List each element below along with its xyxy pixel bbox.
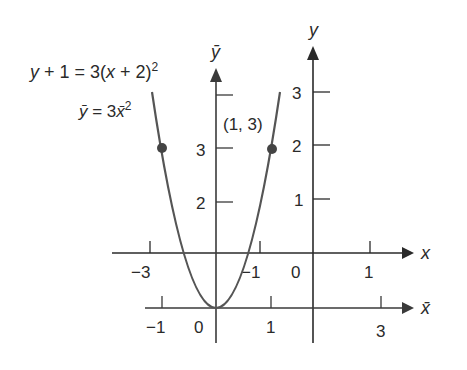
y-tick-label-3: 3 — [292, 84, 301, 103]
xbar-axis-arrow-icon — [402, 302, 414, 314]
xbar-origin-label: 0 — [194, 318, 203, 337]
x-axis-arrow-icon — [402, 247, 414, 259]
xbar-tick-label-1: 1 — [266, 318, 275, 337]
xbar-axis-label: x̄ — [420, 298, 431, 318]
x-origin-label: 0 — [291, 263, 300, 282]
xbar-axis: −1 0 1 3 x̄ — [145, 296, 431, 341]
y-tick-label-2: 2 — [292, 137, 301, 156]
equation-original: y + 1 = 3(x + 2)2 — [28, 60, 159, 82]
x-axis: −3 −1 0 1 x — [112, 241, 431, 282]
ybar-axis-arrow-icon — [210, 68, 222, 82]
xbar-tick-label-neg1: −1 — [146, 318, 165, 337]
point-right — [267, 144, 277, 154]
point-label: (1, 3) — [223, 115, 263, 134]
y-axis-arrow-icon — [307, 46, 319, 60]
xbar-tick-label-3: 3 — [376, 322, 385, 341]
ybar-axis-label: ȳ — [209, 42, 221, 62]
ybar-tick-label-2: 2 — [196, 194, 205, 213]
x-tick-label-neg3: −3 — [131, 263, 150, 282]
y-axis-label: y — [307, 20, 319, 40]
y-tick-label-1: 1 — [294, 191, 303, 210]
equation-translated: ȳ = 3x̄2 — [78, 99, 132, 121]
point-left — [157, 143, 167, 153]
ybar-tick-label-3: 3 — [196, 141, 205, 160]
x-tick-label-1: 1 — [364, 263, 373, 282]
x-axis-label: x — [420, 243, 431, 263]
y-axis: 3 2 1 y — [292, 20, 330, 343]
parabola-figure: −3 −1 0 1 x 3 2 1 y −1 0 1 3 x̄ 3 2 — [0, 0, 467, 370]
